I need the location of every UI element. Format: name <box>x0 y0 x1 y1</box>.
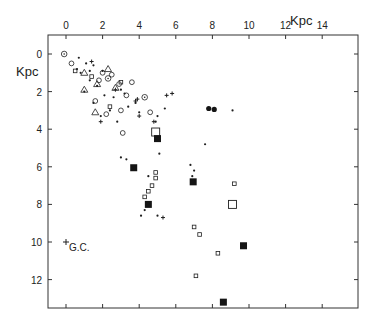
small-dots-marker <box>100 115 102 117</box>
open-triangles-marker <box>105 66 112 72</box>
filled-circles-marker <box>212 107 217 112</box>
y-tick-label: 4 <box>36 124 42 135</box>
small-open-squares-marker <box>216 251 220 255</box>
small-open-squares-marker <box>143 195 147 199</box>
small-open-squares-marker <box>154 176 158 180</box>
small-dots-marker <box>147 175 149 177</box>
y-tick-label: 10 <box>31 237 43 248</box>
x-tick-label: 0 <box>63 20 69 31</box>
crosses-marker <box>99 120 103 124</box>
filled-squares-marker <box>130 164 137 171</box>
small-open-circles-marker <box>109 72 114 77</box>
small-dots-marker <box>85 62 87 64</box>
crosses-marker <box>137 114 141 118</box>
small-open-circles-marker <box>120 131 125 136</box>
small-dots-marker <box>120 89 122 91</box>
small-open-squares-marker <box>192 225 196 229</box>
small-dots-marker <box>191 175 193 177</box>
small-open-circles-marker <box>119 108 124 113</box>
small-dots-marker <box>156 115 158 117</box>
small-dots-marker <box>158 153 160 155</box>
small-dots-marker <box>109 109 111 111</box>
y-tick-label: 0 <box>36 49 42 60</box>
crosses-marker <box>90 60 94 64</box>
small-dots-marker <box>116 121 118 123</box>
scatter-chart: 02468101214 024681012 Kpc Kpc G.C. <box>0 0 378 323</box>
data-points <box>61 51 247 305</box>
small-open-circles-marker <box>69 61 74 66</box>
small-dots-marker <box>103 94 105 96</box>
y-tick-label: 12 <box>31 275 43 286</box>
small-open-circles-marker <box>93 99 98 104</box>
small-dots-marker <box>89 70 91 72</box>
small-dots-marker <box>189 164 191 166</box>
small-open-squares-marker <box>154 171 158 175</box>
filled-squares-marker <box>145 201 152 208</box>
open-triangles-marker <box>81 69 88 75</box>
y-tick-label: 8 <box>36 199 42 210</box>
open-circle-dot-marker <box>61 51 67 57</box>
small-dots-marker <box>193 169 195 171</box>
y-tick-label: 2 <box>36 87 42 98</box>
small-dots-marker <box>125 158 127 160</box>
large-open-squares-marker <box>229 200 237 208</box>
small-dots-marker <box>140 215 142 217</box>
small-open-squares-marker <box>90 75 94 79</box>
small-open-squares-marker <box>233 182 237 186</box>
filled-squares-marker <box>154 135 161 142</box>
small-open-circles-marker <box>148 110 153 115</box>
plot-frame <box>48 35 358 308</box>
small-dots-marker <box>156 215 158 217</box>
open-triangles-marker <box>92 109 99 115</box>
small-open-circles-marker <box>104 112 109 117</box>
x-axis-title: Kpc <box>290 13 313 28</box>
small-dots-marker <box>120 156 122 158</box>
galactic-center-label: G.C. <box>69 242 90 253</box>
small-dots-marker <box>92 64 94 66</box>
crosses-marker <box>161 216 165 220</box>
small-open-squares-marker <box>194 274 198 278</box>
large-open-squares-marker <box>152 128 160 136</box>
small-open-squares-marker <box>150 184 154 188</box>
x-tick-label: 6 <box>173 20 179 31</box>
annotations: G.C. <box>63 239 90 253</box>
y-axis-title: Kpc <box>16 64 39 79</box>
small-open-circles-marker <box>124 93 129 98</box>
small-dots-marker <box>204 143 206 145</box>
small-dots-marker <box>89 79 91 81</box>
x-axis: 02468101214 <box>63 20 328 308</box>
small-open-squares-marker <box>147 189 151 193</box>
filled-squares-marker <box>220 299 227 306</box>
small-dots-marker <box>138 111 140 113</box>
open-circle-dot-marker <box>142 94 148 100</box>
small-dots-marker <box>127 106 129 108</box>
filled-squares-marker <box>240 242 247 249</box>
filled-squares-marker <box>190 178 197 185</box>
small-open-squares-marker <box>108 105 112 109</box>
y-tick-label: 6 <box>36 162 42 173</box>
crosses-marker <box>165 93 169 97</box>
small-dots-marker <box>112 96 114 98</box>
crosses-marker <box>170 91 174 95</box>
small-dots-marker <box>231 109 233 111</box>
x-tick-label: 2 <box>100 20 106 31</box>
small-dots-marker <box>164 107 166 109</box>
small-dots-marker <box>144 209 146 211</box>
filled-circles-marker <box>206 106 211 111</box>
small-open-squares-marker <box>198 233 202 237</box>
small-dots-marker <box>78 57 80 59</box>
x-tick-label: 8 <box>210 20 216 31</box>
crosses-marker <box>152 120 156 124</box>
x-tick-label: 14 <box>317 20 329 31</box>
crosses-marker <box>113 88 117 92</box>
small-open-circles-marker <box>129 80 134 85</box>
x-tick-label: 10 <box>243 20 255 31</box>
x-tick-label: 4 <box>136 20 142 31</box>
